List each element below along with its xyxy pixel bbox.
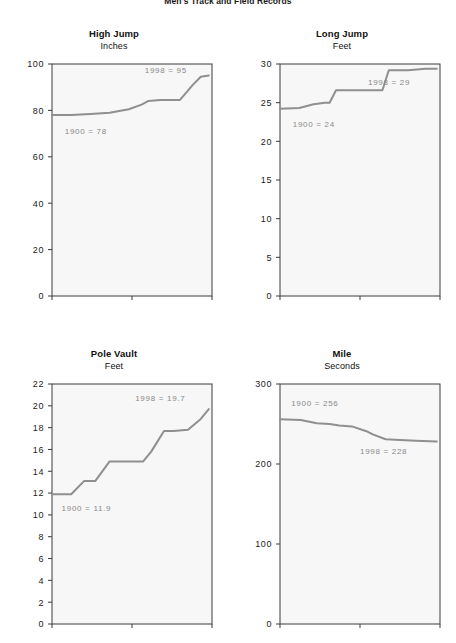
y-tick-label-high-jump-2: 40 xyxy=(33,199,44,209)
y-tick-label-long-jump-6: 30 xyxy=(261,59,272,69)
chart-panel-mile: Mile Seconds 01002003001900195020001900 … xyxy=(228,348,456,632)
y-tick-label-pole-vault-5: 10 xyxy=(33,510,44,520)
chart-subtitle-long-jump: Feet xyxy=(228,40,456,52)
annotation-mile-1: 1998 = 228 xyxy=(360,447,407,456)
plot-frame-long-jump xyxy=(280,64,440,296)
x-tick-label-mile-0: 1900 xyxy=(269,631,291,632)
page-title: Men's Track and Field Records xyxy=(0,0,456,6)
y-tick-label-pole-vault-9: 18 xyxy=(33,423,44,433)
y-tick-label-pole-vault-6: 12 xyxy=(33,488,44,498)
x-tick-label-mile-2: 2000 xyxy=(429,631,451,632)
x-tick-label-mile-1: 1950 xyxy=(349,631,371,632)
annotation-long-jump-0: 1900 = 24 xyxy=(293,120,335,129)
y-tick-label-high-jump-0: 0 xyxy=(38,291,44,301)
annotation-high-jump-1: 1998 = 95 xyxy=(145,66,187,75)
chart-subtitle-high-jump: Inches xyxy=(0,40,228,52)
y-tick-label-mile-3: 300 xyxy=(255,379,272,389)
y-tick-label-pole-vault-2: 4 xyxy=(38,576,44,586)
y-tick-label-pole-vault-0: 0 xyxy=(38,619,44,629)
y-tick-label-mile-1: 100 xyxy=(255,539,272,549)
y-tick-label-mile-2: 200 xyxy=(255,459,272,469)
x-tick-label-pole-vault-1: 1950 xyxy=(121,631,143,632)
y-tick-label-pole-vault-10: 20 xyxy=(33,401,44,411)
chart-panel-long-jump: Long Jump Feet 0510152025301900195020001… xyxy=(228,28,456,302)
y-tick-label-long-jump-5: 25 xyxy=(261,98,272,108)
y-tick-label-long-jump-4: 20 xyxy=(261,137,272,147)
plot-area-mile: 01002003001900195020001900 = 2561998 = 2… xyxy=(228,372,456,632)
y-tick-label-pole-vault-1: 2 xyxy=(38,598,44,608)
plot-frame-high-jump xyxy=(52,64,212,296)
plot-area-long-jump: 0510152025301900195020001900 = 241998 = … xyxy=(228,52,456,302)
y-tick-label-long-jump-3: 15 xyxy=(261,175,272,185)
chart-panel-high-jump: High Jump Inches 02040608010019001950200… xyxy=(0,28,228,302)
plot-area-pole-vault: 02468101214161820221900195020001900 = 11… xyxy=(0,372,228,632)
y-tick-label-mile-0: 0 xyxy=(266,619,272,629)
chart-title-mile: Mile xyxy=(228,348,456,360)
chart-subtitle-mile: Seconds xyxy=(228,360,456,372)
annotation-pole-vault-0: 1900 = 11.9 xyxy=(62,504,112,513)
y-tick-label-high-jump-5: 100 xyxy=(27,59,44,69)
chart-subtitle-pole-vault: Feet xyxy=(0,360,228,372)
chart-title-pole-vault: Pole Vault xyxy=(0,348,228,360)
chart-panel-pole-vault: Pole Vault Feet 024681012141618202219001… xyxy=(0,348,228,632)
annotation-pole-vault-1: 1998 = 19.7 xyxy=(135,394,185,403)
annotation-long-jump-1: 1998 = 29 xyxy=(368,78,410,87)
y-tick-label-pole-vault-8: 16 xyxy=(33,445,44,455)
annotation-mile-0: 1900 = 256 xyxy=(291,399,338,408)
y-tick-label-long-jump-2: 10 xyxy=(261,214,272,224)
y-tick-label-long-jump-1: 5 xyxy=(266,253,272,263)
chart-title-high-jump: High Jump xyxy=(0,28,228,40)
y-tick-label-high-jump-4: 80 xyxy=(33,106,44,116)
x-tick-label-pole-vault-0: 1900 xyxy=(41,631,63,632)
y-tick-label-pole-vault-11: 22 xyxy=(33,379,44,389)
y-tick-label-high-jump-3: 60 xyxy=(33,152,44,162)
y-tick-label-high-jump-1: 20 xyxy=(33,245,44,255)
y-tick-label-pole-vault-4: 8 xyxy=(38,532,44,542)
annotation-high-jump-0: 1900 = 78 xyxy=(65,127,107,136)
y-tick-label-long-jump-0: 0 xyxy=(266,291,272,301)
plot-area-high-jump: 0204060801001900195020001900 = 781998 = … xyxy=(0,52,228,302)
chart-title-long-jump: Long Jump xyxy=(228,28,456,40)
y-tick-label-pole-vault-3: 6 xyxy=(38,554,44,564)
x-tick-label-pole-vault-2: 2000 xyxy=(201,631,223,632)
y-tick-label-pole-vault-7: 14 xyxy=(33,467,44,477)
